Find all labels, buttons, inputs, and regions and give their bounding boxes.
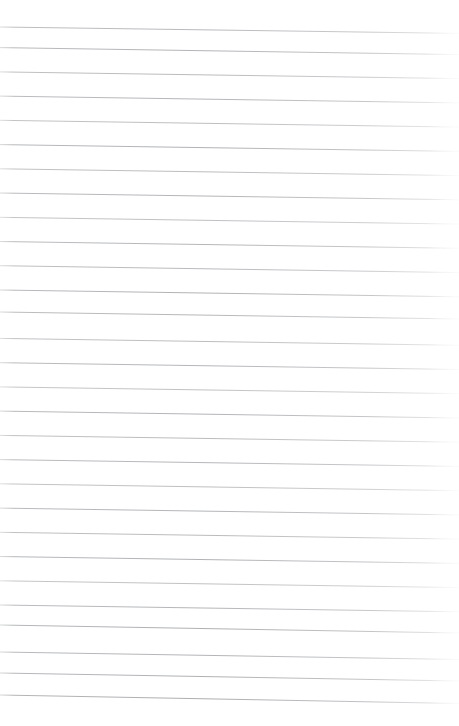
rule-line (0, 266, 459, 273)
rule-line (0, 169, 459, 176)
rule-line (0, 72, 459, 79)
rule-line (0, 484, 459, 491)
rule-line (0, 290, 459, 297)
rule-group (0, 27, 459, 704)
rule-line (0, 673, 459, 681)
rule-line (0, 411, 459, 418)
rule-line (0, 48, 459, 55)
rule-line (0, 338, 459, 345)
rule-line (0, 387, 459, 394)
rule-line (0, 460, 459, 467)
rule-line (0, 27, 459, 33)
rule-line (0, 242, 459, 249)
rule-line (0, 193, 459, 200)
rule-line (0, 508, 459, 515)
rule-line (0, 695, 459, 704)
rule-line (0, 652, 459, 660)
rule-line (0, 605, 459, 612)
rule-line (0, 312, 459, 319)
scanned-page (0, 0, 459, 726)
ruled-lines-layer (0, 0, 459, 726)
rule-line (0, 96, 459, 103)
rule-line (0, 532, 459, 539)
rule-line (0, 581, 459, 588)
rule-line (0, 557, 459, 564)
rule-line (0, 217, 459, 224)
rule-line (0, 625, 459, 633)
rule-line (0, 120, 459, 127)
rule-line (0, 363, 459, 370)
rule-line (0, 145, 459, 152)
rule-line (0, 435, 459, 442)
